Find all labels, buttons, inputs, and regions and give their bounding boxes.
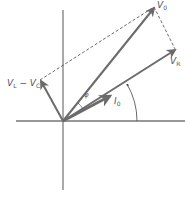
v0-label: V0 bbox=[157, 1, 167, 11]
vr-phasor-arrow bbox=[63, 50, 175, 121]
dashed-line-right bbox=[154, 7, 175, 49]
dashed-line-top bbox=[40, 7, 154, 80]
vr-label: VR bbox=[170, 57, 180, 67]
i0-phasor-arrow bbox=[63, 96, 110, 121]
v0-phasor-arrow bbox=[63, 8, 154, 121]
i0-label: I0 bbox=[114, 97, 120, 107]
phase-angle-arc bbox=[127, 84, 137, 121]
vl-minus-vc-phasor-arrow bbox=[41, 81, 63, 121]
phasor-diagram bbox=[0, 0, 185, 197]
phi-label: φ bbox=[84, 92, 89, 99]
phi-angle-arc bbox=[78, 103, 83, 109]
vl-minus-vc-label: VL − VC bbox=[7, 79, 40, 89]
